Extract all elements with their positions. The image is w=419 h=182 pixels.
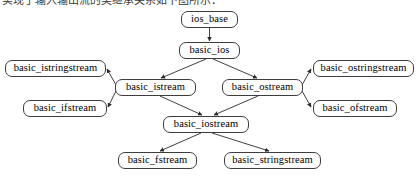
node-ios-base[interactable]: ios_base: [181, 11, 238, 28]
edge-basic_ostream-basic_ofstream: [302, 91, 311, 107]
node-basic-iostream[interactable]: basic_iostream: [163, 116, 249, 133]
node-label: basic_istringstream: [14, 63, 98, 74]
edge-basic_ostream-basic_iostream: [214, 96, 258, 115]
node-label: basic_ios: [190, 45, 230, 56]
node-label: basic_ifstream: [34, 103, 97, 114]
node-label: basic_iostream: [174, 119, 238, 130]
node-label: basic_stringstream: [232, 155, 313, 166]
node-basic-ostream[interactable]: basic_ostream: [222, 79, 303, 96]
node-label: basic_ostringstream: [321, 63, 407, 74]
diagram-canvas: 实现了输入输出流的类继承关系如下图所示：: [0, 0, 419, 182]
node-basic-ifstream[interactable]: basic_ifstream: [23, 100, 107, 117]
edge-basic_iostream-basic_fstream: [160, 133, 201, 151]
node-label: ios_base: [191, 14, 228, 25]
node-basic-istringstream[interactable]: basic_istringstream: [5, 60, 106, 77]
node-basic-fstream[interactable]: basic_fstream: [118, 152, 197, 169]
edge-basic_iostream-basic_stringstream: [212, 133, 269, 151]
node-basic-ios[interactable]: basic_ios: [179, 42, 240, 59]
node-label: basic_ofstream: [323, 103, 388, 114]
edge-basic_ios-basic_ostream: [213, 59, 257, 78]
edge-basic_istream-basic_ifstream: [108, 91, 116, 107]
node-basic-istream[interactable]: basic_istream: [115, 79, 196, 96]
edge-basic_ios-basic_istream: [161, 59, 206, 78]
node-basic-ostringstream[interactable]: basic_ostringstream: [313, 60, 414, 77]
node-label: basic_fstream: [128, 155, 188, 166]
node-basic-ofstream[interactable]: basic_ofstream: [313, 100, 397, 117]
edge-basic_ostream-basic_ostringstream: [302, 69, 311, 85]
node-label: basic_ostream: [232, 82, 293, 93]
node-label: basic_istream: [126, 82, 185, 93]
edge-basic_istream-basic_iostream: [160, 96, 202, 115]
node-basic-stringstream[interactable]: basic_stringstream: [224, 152, 321, 169]
